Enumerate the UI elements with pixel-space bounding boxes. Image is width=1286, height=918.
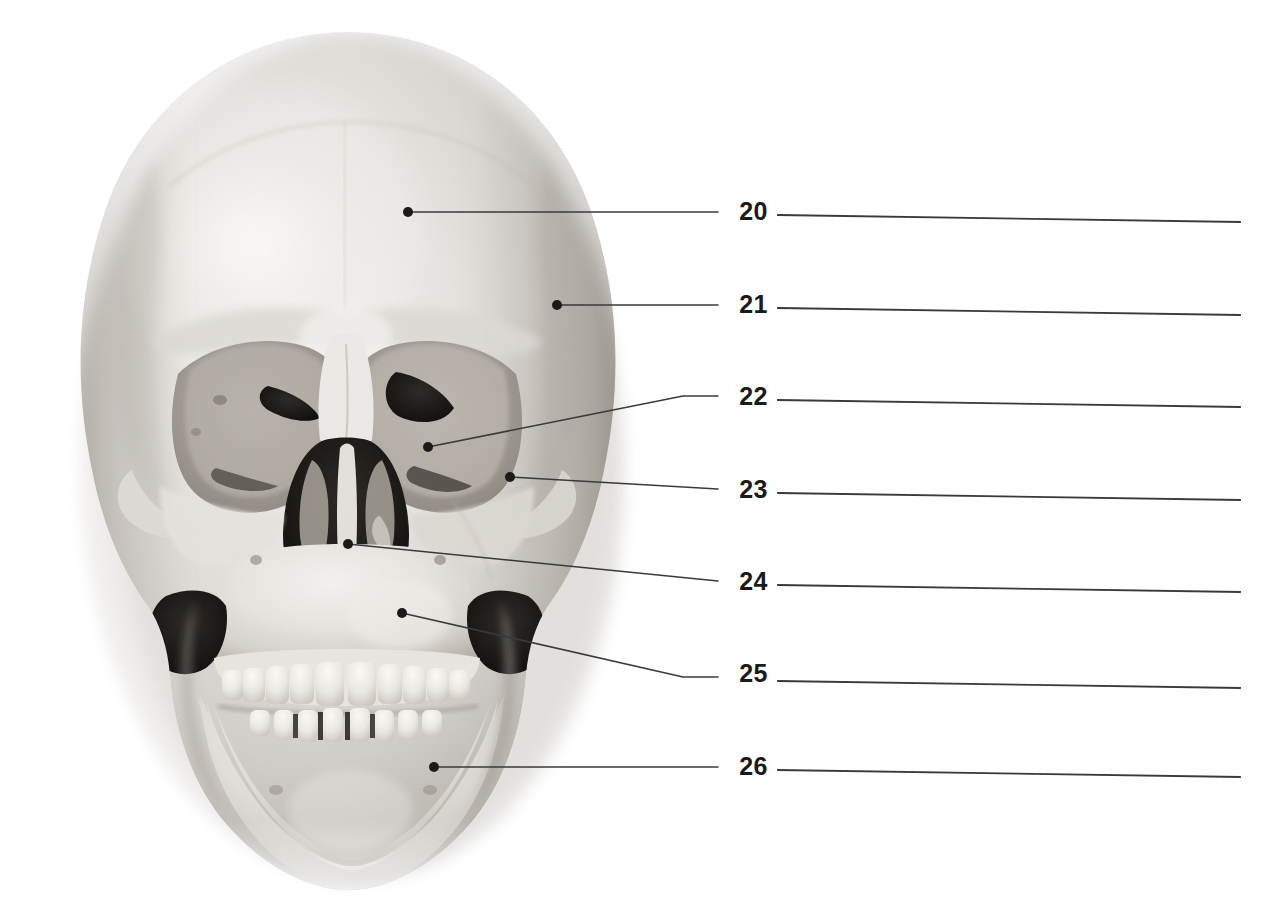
callout-number-21: 21 <box>726 292 768 317</box>
leader-dot-23 <box>505 472 515 482</box>
leader-dot-21 <box>552 300 562 310</box>
leader-dot-22 <box>423 442 433 452</box>
answer-line-24[interactable] <box>778 585 1240 592</box>
callout-number-25: 25 <box>726 661 768 686</box>
answer-line-26[interactable] <box>778 770 1240 777</box>
leader-dot-20 <box>403 207 413 217</box>
answer-line-20[interactable] <box>778 215 1240 222</box>
answer-line-23[interactable] <box>778 493 1240 500</box>
callout-number-23: 23 <box>726 477 768 502</box>
leader-dot-25 <box>397 608 407 618</box>
callout-number-20: 20 <box>726 199 768 224</box>
callout-number-26: 26 <box>726 754 768 779</box>
skull-photograph <box>40 16 660 910</box>
leader-dot-26 <box>429 762 439 772</box>
figure-and-callouts-canvas <box>0 0 1286 918</box>
callout-number-24: 24 <box>726 569 768 594</box>
callout-number-22: 22 <box>726 384 768 409</box>
answer-write-in-lines <box>778 215 1240 777</box>
answer-line-22[interactable] <box>778 400 1240 407</box>
answer-line-21[interactable] <box>778 308 1240 315</box>
answer-line-25[interactable] <box>778 681 1240 688</box>
leader-dot-24 <box>343 539 353 549</box>
worksheet-page: 20212223242526 <box>0 0 1286 918</box>
